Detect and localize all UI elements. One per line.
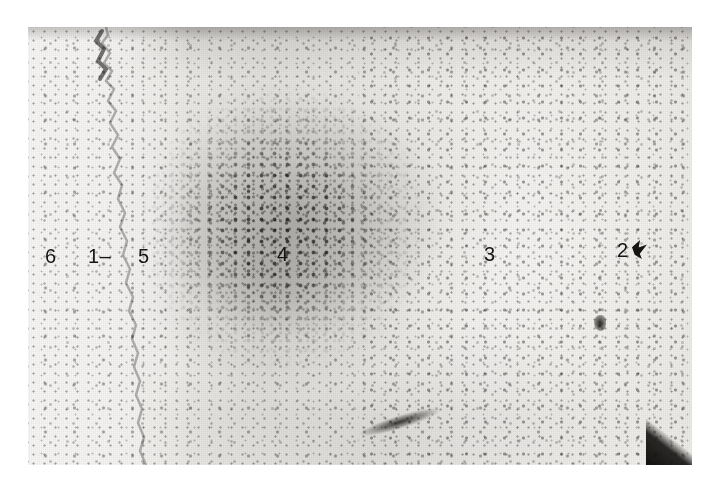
region-label-5: 5 xyxy=(138,246,150,266)
region-label-1-pointer-dash: – xyxy=(100,245,111,267)
region-label-4: 4 xyxy=(277,244,289,264)
micrograph-figure: 6 1– 5 4 3 2 xyxy=(0,0,712,487)
region-label-3: 3 xyxy=(484,244,496,264)
region-label-6: 6 xyxy=(45,246,57,266)
region-label-1: 1– xyxy=(88,246,111,266)
halftone-grain-horizontal xyxy=(28,27,692,465)
region-label-2: 2 xyxy=(617,240,629,260)
corner-artefact xyxy=(646,413,692,465)
micrograph-plate xyxy=(28,27,692,465)
region-label-1-number: 1 xyxy=(88,245,100,267)
